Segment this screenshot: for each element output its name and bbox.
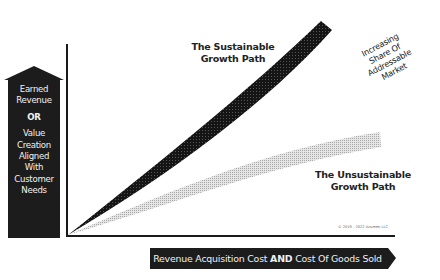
y-label-line: Needs bbox=[21, 185, 46, 195]
copyright-notice: © 2019 - 2022 Acumen LLC bbox=[338, 225, 388, 229]
y-label-or: OR bbox=[8, 112, 60, 123]
unsustainable-path-label: The Unsustainable Growth Path bbox=[308, 169, 418, 193]
y-label-line: Revenue bbox=[16, 95, 51, 105]
y-label-line: Aligned bbox=[19, 151, 49, 161]
y-label-line: With bbox=[25, 162, 43, 172]
y-label-line: Creation bbox=[17, 140, 51, 150]
y-label-line: Customer bbox=[14, 174, 53, 184]
x-label-bold: AND bbox=[270, 253, 292, 264]
x-axis-label: Revenue Acquisition Cost AND Cost Of Goo… bbox=[150, 249, 385, 269]
y-label-line: Value bbox=[23, 128, 45, 138]
label-line: The Unsustainable bbox=[315, 169, 411, 180]
x-label-part: Cost Of Goods Sold bbox=[292, 253, 381, 264]
label-line: The Sustainable bbox=[191, 41, 274, 52]
y-axis-label: Earned Revenue OR Value Creation Aligned… bbox=[8, 84, 60, 197]
label-line: Growth Path bbox=[201, 53, 266, 64]
sustainable-path-label: The Sustainable Growth Path bbox=[178, 41, 288, 65]
y-label-line: Earned bbox=[20, 84, 48, 94]
x-label-part: Revenue Acquisition Cost bbox=[153, 253, 270, 264]
label-line: Growth Path bbox=[331, 181, 396, 192]
growth-path-diagram: Earned Revenue OR Value Creation Aligned… bbox=[0, 0, 440, 280]
